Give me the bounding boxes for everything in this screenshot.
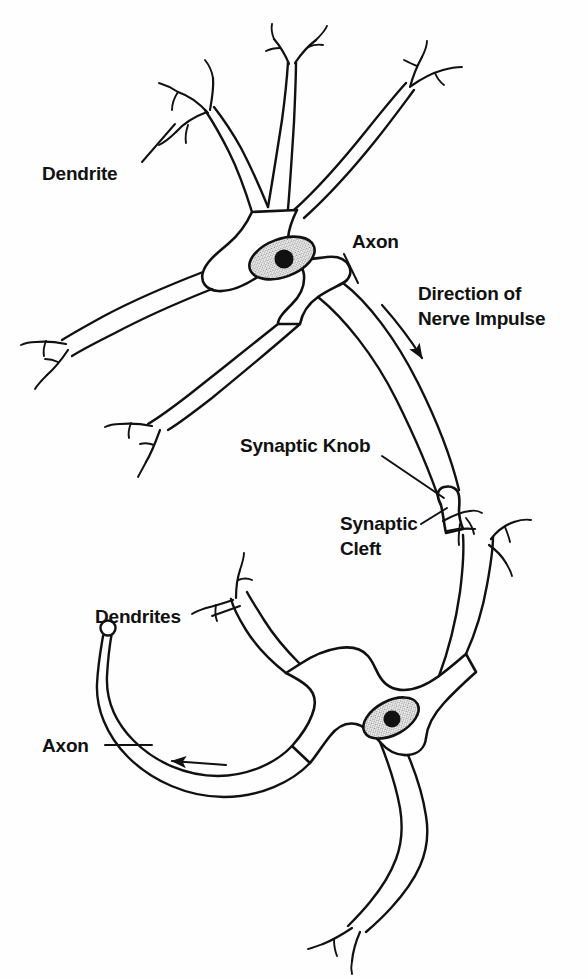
upper-dendrite-mid-twigs xyxy=(266,24,327,64)
upper-dendrite-right-twigs xyxy=(404,41,462,87)
lower-nucleolus xyxy=(384,711,401,728)
upper-dendrite-lowleft2-bottom-tube xyxy=(168,324,300,430)
upper-dendrite-mid-right-tube xyxy=(288,62,296,209)
lower-dendrite-downright-right-tube xyxy=(366,755,427,932)
lower-neuron xyxy=(97,520,531,974)
lower-dendrite-downright-left-tube xyxy=(348,742,402,926)
label-dendrites-bottom: Dendrites xyxy=(95,606,181,627)
neuron-diagram-canvas: Dendrite Axon Direction of Nerve Impulse… xyxy=(0,0,588,979)
lower-dendrite-upright-twigs xyxy=(489,520,531,576)
upper-dendrite-mid-left-tube xyxy=(268,62,288,207)
upper-neuron xyxy=(21,24,482,545)
lower-dendrite-upleft-inner-tube xyxy=(247,592,300,664)
upper-dendrite-lowleft-twigs xyxy=(21,341,68,389)
lower-dendrite-upleft-twigs xyxy=(192,553,252,621)
upper-dendrite-right-inner-tube xyxy=(294,83,406,210)
upper-dendrite-lowleft2-twigs xyxy=(105,423,160,477)
upper-dendrite-left-lower-tube xyxy=(214,107,268,207)
upper-dendrite-right-outer-tube xyxy=(304,90,414,218)
label-synaptic-cleft-line1: Synaptic xyxy=(340,513,418,534)
lower-impulse-arrow xyxy=(172,761,226,765)
lower-dendrite-downright-twigs xyxy=(308,928,360,974)
neuron-diagram-figure: Dendrite Axon Direction of Nerve Impulse… xyxy=(0,0,588,979)
label-direction-line2: Nerve Impulse xyxy=(418,308,545,329)
upper-dendrite-lowleft-top-tube xyxy=(62,272,203,340)
lower-dendrite-upright-right-tube xyxy=(466,537,493,654)
label-synaptic-knob: Synaptic Knob xyxy=(240,435,370,456)
synaptic-knob-leader xyxy=(382,456,444,498)
label-synaptic-cleft-line2: Cleft xyxy=(340,538,382,559)
dendrite-top-leader xyxy=(142,124,175,162)
label-axon-bottom: Axon xyxy=(42,735,89,756)
upper-nucleolus xyxy=(275,250,294,269)
label-direction-line1: Direction of xyxy=(418,283,522,304)
label-axon-top: Axon xyxy=(352,231,399,252)
upper-dendrite-lowleft2-top-tube xyxy=(148,324,278,424)
lower-dendrite-upright-left-tube xyxy=(439,535,463,676)
label-dendrite-top: Dendrite xyxy=(42,163,117,184)
lower-axon-outer-tube xyxy=(97,636,310,797)
